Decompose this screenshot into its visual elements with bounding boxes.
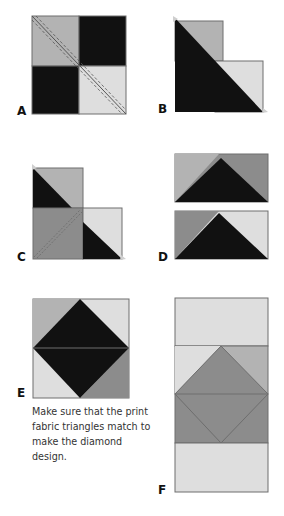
instruction-note: Make sure that the print fabric triangle… [32, 404, 152, 464]
panel-e-diamond-block [33, 299, 129, 398]
panel-label-d: D [158, 250, 168, 264]
panel-label-f: F [158, 483, 166, 497]
panel-b-cut-units [173, 16, 268, 113]
panel-label-a: A [17, 104, 26, 118]
panel-label-b: B [158, 102, 167, 116]
panel-label-e: E [17, 386, 25, 400]
panel-d-triangle-units [175, 154, 268, 259]
panel-label-c: C [17, 250, 26, 264]
panel-a-four-patch [32, 16, 126, 114]
panel-f-finished-block [175, 298, 268, 492]
panel-c-pressed-units [32, 164, 126, 260]
